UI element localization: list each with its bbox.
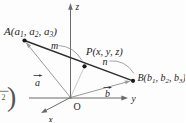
segment-op-line: [71, 67, 85, 98]
z-axis-label: z: [75, 2, 80, 12]
point-a-label: A(a1, a2, a3): [3, 25, 57, 39]
point-b-dot: [131, 79, 135, 83]
y-axis-label: y: [131, 94, 137, 104]
vector-ob-line: [71, 82, 126, 97]
point-a-label-post: ): [52, 25, 57, 38]
segment-pb-label: n: [103, 56, 108, 67]
point-b-label-mid2: , b: [169, 72, 179, 83]
origin-label: O: [74, 101, 81, 112]
segment-pb-leader-arc: [110, 61, 135, 74]
point-a-dot: [22, 38, 26, 42]
point-b-label: B(b1, b2, b3): [138, 72, 186, 85]
point-b-label-mid1: , b: [155, 72, 165, 83]
vector-a-label: a: [35, 77, 40, 88]
x-axis-arrowhead-icon: [41, 108, 47, 113]
coordinate-geometry-figure: z y x O A(a1, a2, a3) P(x, y, z) B(b1, b…: [0, 0, 185, 122]
z-axis-arrowhead-icon: [68, 3, 73, 10]
point-a-label-mid1: , a: [24, 25, 36, 37]
segment-ap-label: m: [51, 40, 58, 51]
vector-oa-line: [26, 43, 71, 98]
fragment-closing-paren: ): [7, 81, 16, 112]
fragment-denominator: 2: [2, 93, 6, 102]
point-p-dot: [82, 64, 86, 68]
x-axis-line: [46, 98, 71, 111]
x-axis-label: x: [48, 115, 54, 123]
point-b-label-post: ): [181, 72, 185, 84]
y-axis-arrowhead-icon: [121, 96, 128, 101]
figure-canvas: z y x O A(a1, a2, a3) P(x, y, z) B(b1, b…: [0, 0, 185, 122]
vector-ob-arrowhead-icon: [125, 81, 131, 85]
point-b-label-pre: B(b: [138, 72, 152, 84]
point-a-label-mid2: , a: [38, 25, 50, 37]
point-a-label-pre: A(a: [3, 25, 20, 38]
origin-dot: [69, 96, 72, 99]
vector-b-label: b: [105, 88, 110, 99]
